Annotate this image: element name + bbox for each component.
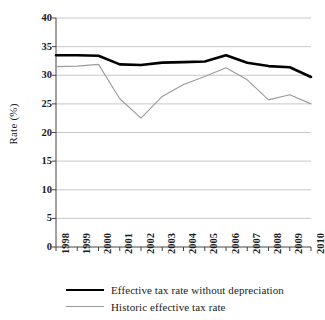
x-axis-tick: 2007 <box>252 233 263 254</box>
legend-label: Historic effective tax rate <box>111 301 226 313</box>
x-axis-tick: 1998 <box>61 233 72 254</box>
legend-swatch-thin-icon <box>66 306 104 307</box>
x-axis-tick: 1999 <box>82 233 93 254</box>
legend-item-effective-tax-rate-without-depreciation: Effective tax rate without depreciation <box>66 281 321 298</box>
x-axis-tick: 2004 <box>188 233 199 254</box>
x-axis-tick: 2009 <box>294 233 305 254</box>
x-axis-tick: 2002 <box>146 233 157 254</box>
x-axis-tick: 2001 <box>124 233 135 254</box>
x-axis-tick: 2010 <box>316 233 325 254</box>
x-axis-tick: 2005 <box>209 233 220 254</box>
x-axis-tick: 2006 <box>231 233 242 254</box>
x-axis-tick: 2003 <box>167 233 178 254</box>
x-axis-tick: 2008 <box>273 233 284 254</box>
line-chart: Rate (%) 4035302520151050 19981999200020… <box>0 0 325 320</box>
legend-label: Effective tax rate without depreciation <box>111 284 284 296</box>
legend-swatch-solid-icon <box>66 289 104 291</box>
x-axis-tick-labels: 1998199920002001200220032004200520062007… <box>0 0 325 320</box>
legend-item-historic-effective-tax-rate: Historic effective tax rate <box>66 298 321 315</box>
chart-legend: Effective tax rate without depreciation … <box>66 281 321 315</box>
x-axis-tick: 2000 <box>103 233 114 254</box>
